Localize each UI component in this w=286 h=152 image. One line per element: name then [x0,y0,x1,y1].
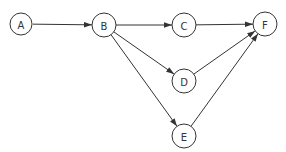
edge-c-f [196,24,253,25]
directed-graph: A B C F D E [0,0,286,152]
edge-b-e [111,35,177,127]
edge-b-d [114,32,174,74]
node-a: A [10,13,32,35]
node-c: C [172,13,196,37]
node-b-label: B [101,21,108,32]
node-c-label: C [181,21,188,32]
node-f-label: F [262,20,268,31]
node-e-label: E [181,132,187,143]
edge-a-b [33,24,92,25]
edge-e-f [191,34,258,127]
node-d: D [172,69,196,93]
edges [33,24,258,126]
node-d-label: D [180,77,188,88]
node-a-label: A [18,20,25,31]
node-e: E [172,124,196,148]
node-b: B [92,13,116,37]
node-f: F [253,12,277,36]
edge-d-f [194,31,255,74]
